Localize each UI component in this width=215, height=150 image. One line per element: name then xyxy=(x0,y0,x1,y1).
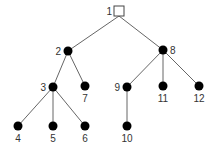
edge-1-2 xyxy=(68,16,119,51)
tree-node-10: 10 xyxy=(121,122,133,145)
node-dot-icon xyxy=(159,46,168,55)
node-dot-icon xyxy=(123,83,132,92)
node-label: 11 xyxy=(158,93,169,104)
edge-1-8 xyxy=(119,16,163,50)
tree-node-5: 5 xyxy=(49,122,58,145)
node-label: 3 xyxy=(40,82,46,93)
edges xyxy=(18,16,199,126)
node-dot-icon xyxy=(81,122,90,131)
edge-3-4 xyxy=(18,87,53,126)
edge-8-9 xyxy=(127,50,163,87)
node-dot-icon xyxy=(64,47,73,56)
node-dot-icon xyxy=(49,122,58,131)
edge-3-6 xyxy=(53,87,85,126)
tree-node-9: 9 xyxy=(114,82,131,93)
tree-node-11: 11 xyxy=(158,82,169,105)
node-dot-icon xyxy=(159,82,168,91)
nodes: 123456789101112 xyxy=(14,6,205,144)
tree-node-4: 4 xyxy=(14,122,23,145)
tree-node-6: 6 xyxy=(81,122,90,145)
node-label: 7 xyxy=(82,93,88,104)
node-dot-icon xyxy=(49,83,58,92)
node-label: 4 xyxy=(15,133,21,144)
root-square-icon xyxy=(114,6,124,16)
node-dot-icon xyxy=(14,122,23,131)
node-dot-icon xyxy=(81,82,90,91)
node-label: 8 xyxy=(170,45,176,56)
node-label: 1 xyxy=(106,6,112,17)
node-label: 6 xyxy=(82,133,88,144)
node-dot-icon xyxy=(195,82,204,91)
edge-2-7 xyxy=(68,51,85,86)
tree-node-7: 7 xyxy=(81,82,90,105)
node-label: 12 xyxy=(193,93,205,104)
edge-8-12 xyxy=(163,50,199,86)
node-label: 2 xyxy=(55,46,61,57)
node-label: 9 xyxy=(114,82,120,93)
node-dot-icon xyxy=(123,122,132,131)
node-label: 10 xyxy=(121,133,133,144)
node-label: 5 xyxy=(50,133,56,144)
tree-node-12: 12 xyxy=(193,82,205,105)
tree-diagram: 123456789101112 xyxy=(0,0,215,150)
tree-node-1: 1 xyxy=(106,6,124,17)
